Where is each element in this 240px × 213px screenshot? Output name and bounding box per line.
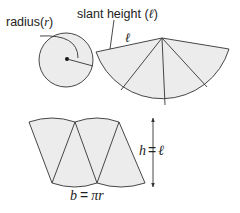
slant-height-label: slant height (ℓ) [77,7,158,21]
sector-edge-label: ℓ [125,30,131,45]
height-label: h=ℓ [139,142,164,158]
base-circle [39,33,93,87]
slant-height-leader [110,20,114,49]
radius-label: radius(r) [6,15,53,29]
cone-surface-area-diagram: radius(r) slant height (ℓ) ℓ h=ℓ b=πr [0,0,240,213]
rearranged-parallelogram [29,118,145,187]
unrolled-sector [96,38,229,105]
base-label: b=πr [70,187,104,203]
